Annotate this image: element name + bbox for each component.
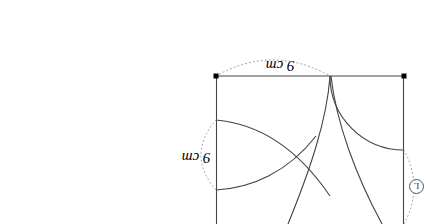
arc-top-right-quarter bbox=[330, 76, 404, 150]
arcs-group bbox=[216, 76, 404, 224]
vertex-dot-top-right bbox=[402, 74, 407, 79]
square-outline bbox=[216, 76, 404, 224]
dimension-arc-top bbox=[216, 60, 330, 76]
arc-centre-left-sweep bbox=[288, 76, 330, 224]
dimension-arc-left bbox=[201, 120, 216, 190]
arc-centre-right-sweep bbox=[331, 76, 382, 224]
figure-svg bbox=[0, 0, 427, 224]
vertex-dot-top-left bbox=[214, 74, 219, 79]
geometry-figure: 9 cm 9 cm L bbox=[0, 0, 427, 224]
arc-left-lower bbox=[216, 136, 316, 190]
circled-label-badge: L bbox=[409, 179, 424, 194]
dimension-arcs bbox=[201, 60, 414, 224]
